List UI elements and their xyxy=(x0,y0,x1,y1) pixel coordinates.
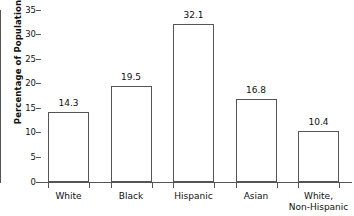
x-axis-tick xyxy=(152,183,153,188)
x-axis-tick xyxy=(339,183,340,188)
x-axis-tick xyxy=(277,183,278,188)
y-axis-tick xyxy=(36,132,41,133)
x-axis-tick xyxy=(111,183,112,188)
y-axis-tick xyxy=(36,34,41,35)
x-axis-tick xyxy=(48,183,49,188)
x-axis-tick xyxy=(298,183,299,188)
x-axis-tick xyxy=(214,183,215,188)
bar-value-label: 14.3 xyxy=(38,99,99,108)
bar-value-label: 16.8 xyxy=(226,86,287,95)
y-axis-tick xyxy=(36,108,41,109)
y-axis-tick xyxy=(36,59,41,60)
y-axis-tick-label: 0 xyxy=(10,178,36,187)
y-axis-title: Percentage of Population xyxy=(13,0,23,142)
bar xyxy=(111,86,152,182)
y-axis-tick xyxy=(36,10,41,11)
bar xyxy=(173,24,214,182)
x-axis-tick xyxy=(236,183,237,188)
bar xyxy=(298,131,339,182)
bar xyxy=(236,99,277,182)
y-axis-tick-label: 25 xyxy=(10,55,36,64)
y-axis-tick xyxy=(36,182,41,183)
y-axis-tick-label: 15 xyxy=(10,104,36,113)
x-axis-line xyxy=(41,182,352,183)
y-axis-tick xyxy=(36,83,41,84)
bar-chart: Percentage of Population 05101520253035 … xyxy=(0,0,354,216)
x-axis-category-label-line2: Non-Hispanic xyxy=(276,202,354,213)
y-axis-tick-label: 35 xyxy=(10,6,36,15)
y-axis-tick-label: 30 xyxy=(10,30,36,39)
x-axis-tick xyxy=(89,183,90,188)
y-axis-tick-label: 5 xyxy=(10,153,36,162)
x-axis-tick xyxy=(173,183,174,188)
bar-value-label: 10.4 xyxy=(288,118,349,127)
y-axis-tick-label: 10 xyxy=(10,128,36,137)
x-axis-category-label: White,Non-Hispanic xyxy=(276,191,354,213)
bar-value-label: 32.1 xyxy=(163,11,224,20)
bar-value-label: 19.5 xyxy=(101,73,162,82)
y-axis-line xyxy=(0,10,1,183)
bar xyxy=(48,112,89,182)
y-axis-tick xyxy=(36,157,41,158)
y-axis-tick-label: 20 xyxy=(10,79,36,88)
